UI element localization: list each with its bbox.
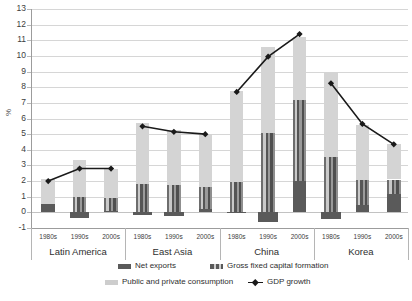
- y-axis-tick-5: 5: [0, 129, 26, 138]
- legend-label-consumption: Public and private consumption: [122, 278, 233, 286]
- gridline-2: [31, 181, 408, 182]
- bar-segment-net-exports: [387, 194, 401, 213]
- x-axis-decade-label-korea-2000s: 2000s: [378, 234, 410, 241]
- bar-segment-consumption: [356, 125, 370, 180]
- bar-segment-consumption: [199, 134, 213, 187]
- plot-area: [31, 9, 408, 228]
- bar-segment-gfcf: [136, 184, 150, 212]
- x-axis-decade-label-east-asia-1980s: 1980s: [126, 234, 158, 241]
- gridline-12: [31, 25, 408, 26]
- x-axis-left-edge: [31, 228, 32, 260]
- y-axis-tick-11: 11: [0, 35, 26, 44]
- consumption-swatch: [105, 280, 118, 285]
- x-axis-decade-label-china-2000s: 2000s: [284, 234, 316, 241]
- bar-segment-net-exports-negative: [258, 212, 278, 221]
- bar-segment-consumption: [387, 144, 401, 180]
- bar-segment-net-exports-negative: [164, 212, 184, 216]
- bar-segment-net-exports: [199, 209, 213, 212]
- y-axis-tick-4: 4: [0, 145, 26, 154]
- economic-growth-decomposition-chart: % 131211109876543210-1 1980s1990s2000sLa…: [0, 0, 412, 301]
- bar-segment-net-exports-negative: [227, 212, 247, 213]
- bar-segment-gfcf: [104, 198, 118, 211]
- y-axis-tick-0: 0: [0, 207, 26, 216]
- legend-item-net-exports[interactable]: Net exports: [118, 262, 176, 270]
- bar-segment-net-exports-negative: [133, 212, 153, 215]
- legend-row-2: Public and private consumption GDP growt…: [0, 278, 412, 290]
- bar-segment-gfcf: [387, 180, 401, 194]
- y-axis-tick-13: 13: [0, 4, 26, 13]
- x-axis-decade-label-china-1980s: 1980s: [221, 234, 253, 241]
- x-axis-decade-label-east-asia-2000s: 2000s: [189, 234, 221, 241]
- y-axis-tick-neg1: -1: [0, 223, 26, 232]
- bar-segment-gfcf: [73, 197, 87, 212]
- y-axis-tick-12: 12: [0, 20, 26, 29]
- net-exports-swatch: [118, 264, 131, 269]
- y-axis-tick-8: 8: [0, 82, 26, 91]
- y-axis-tick-1: 1: [0, 192, 26, 201]
- y-axis-tick-10: 10: [0, 51, 26, 60]
- bar-segment-net-exports: [356, 205, 370, 212]
- x-axis-decade-label-east-asia-1990s: 1990s: [158, 234, 190, 241]
- gridline-10: [31, 56, 408, 57]
- x-axis-decade-label-latin-america-1980s: 1980s: [32, 234, 64, 241]
- bar-segment-consumption: [230, 91, 244, 182]
- y-axis-tick-6: 6: [0, 114, 26, 123]
- x-axis-decade-label-latin-america-2000s: 2000s: [95, 234, 127, 241]
- gridline-3: [31, 165, 408, 166]
- bar-segment-consumption: [73, 160, 87, 198]
- y-axis-tick-7: 7: [0, 98, 26, 107]
- gridline-5: [31, 134, 408, 135]
- bar-segment-gfcf: [167, 185, 181, 212]
- gridline-1: [31, 197, 408, 198]
- bar-segment-gfcf: [199, 187, 213, 209]
- bar-segment-gfcf: [261, 133, 275, 213]
- x-axis-decade-label-latin-america-1990s: 1990s: [64, 234, 96, 241]
- y-axis-tick-9: 9: [0, 67, 26, 76]
- legend-item-consumption[interactable]: Public and private consumption: [105, 278, 233, 286]
- gridline-9: [31, 72, 408, 73]
- y-axis-line: [31, 9, 32, 228]
- x-axis-group-label-china: China: [220, 247, 314, 257]
- x-axis-group-label-east-asia: East Asia: [125, 247, 219, 257]
- legend-item-gdp-growth[interactable]: GDP growth: [248, 278, 310, 286]
- x-axis-decade-label-korea-1990s: 1990s: [346, 234, 378, 241]
- legend-label-gfcf: Gross fixed capital formation: [227, 262, 328, 270]
- bar-segment-gfcf: [293, 100, 307, 181]
- gfcf-swatch: [210, 264, 223, 269]
- legend-row-1: Net exports Gross fixed capital formatio…: [0, 262, 412, 274]
- legend-item-gfcf[interactable]: Gross fixed capital formation: [210, 262, 328, 270]
- y-axis-tick-2: 2: [0, 176, 26, 185]
- bar-segment-consumption: [41, 179, 55, 204]
- bar-segment-consumption: [167, 130, 181, 185]
- x-axis-decade-label-china-1990s: 1990s: [252, 234, 284, 241]
- bar-segment-net-exports: [293, 181, 307, 212]
- bar-segment-consumption: [324, 72, 338, 156]
- legend-label-gdp-growth: GDP growth: [267, 278, 310, 286]
- bar-segment-net-exports: [41, 204, 55, 213]
- gdp-growth-line-swatch: [248, 280, 263, 285]
- legend-label-net-exports: Net exports: [135, 262, 176, 270]
- bar-segment-consumption: [261, 47, 275, 133]
- bar-segment-gfcf: [230, 182, 244, 213]
- gridline-6: [31, 119, 408, 120]
- y-axis-tick-3: 3: [0, 160, 26, 169]
- x-axis-group-label-latin-america: Latin America: [31, 247, 125, 257]
- bar-segment-net-exports-negative: [70, 212, 90, 217]
- bar-segment-gfcf: [324, 157, 338, 213]
- bar-segment-net-exports: [104, 211, 118, 213]
- gridline-4: [31, 150, 408, 151]
- bar-segment-net-exports-negative: [321, 212, 341, 219]
- x-axis-group-label-korea: Korea: [314, 247, 408, 257]
- bar-segment-gfcf: [356, 180, 370, 206]
- bar-segment-consumption: [104, 169, 118, 199]
- gridline-7: [31, 103, 408, 104]
- gridline-8: [31, 87, 408, 88]
- gridline-11: [31, 40, 408, 41]
- gridline-13: [31, 9, 408, 10]
- x-axis-right-edge: [408, 228, 409, 260]
- bar-segment-consumption: [293, 37, 307, 100]
- x-axis-decade-label-korea-1980s: 1980s: [315, 234, 347, 241]
- bar-segment-consumption: [136, 123, 150, 184]
